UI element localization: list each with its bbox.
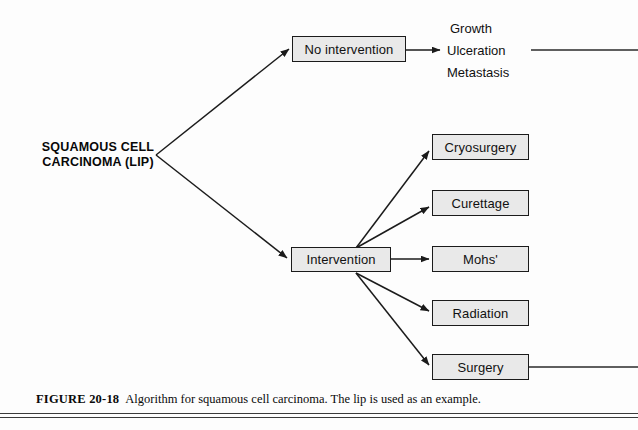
node-curettage[interactable]: Curettage: [432, 190, 529, 216]
figure-canvas: SQUAMOUS CELL CARCINOMA (LIP) No interve…: [0, 0, 638, 430]
edge-intervention-to-surgery: [356, 273, 429, 365]
node-radiation[interactable]: Radiation: [432, 300, 529, 326]
node-intervention[interactable]: Intervention: [291, 247, 391, 272]
node-cryosurgery[interactable]: Cryosurgery: [432, 134, 529, 160]
caption-rule-bottom: [0, 417, 638, 418]
node-mohs[interactable]: Mohs': [432, 246, 529, 272]
root-label-line-1: SQUAMOUS CELL: [24, 140, 172, 155]
root-node-label: SQUAMOUS CELL CARCINOMA (LIP): [24, 140, 172, 170]
edge-intervention-to-radiation: [356, 273, 429, 311]
figure-number: FIGURE 20-18: [36, 392, 119, 406]
caption-rule-top: [0, 413, 638, 414]
figure-caption: FIGURE 20-18Algorithm for squamous cell …: [36, 392, 616, 407]
edge-intervention-to-curettage: [356, 207, 429, 248]
outcome-growth: Growth: [450, 21, 492, 36]
edge-root-to-intervention: [156, 155, 287, 258]
outcome-ulceration: Ulceration: [447, 43, 506, 58]
node-surgery[interactable]: Surgery: [432, 354, 529, 380]
node-no-intervention[interactable]: No intervention: [292, 36, 406, 62]
outcome-metastasis: Metastasis: [447, 65, 509, 80]
connector-layer: [0, 0, 638, 430]
root-label-line-2: CARCINOMA (LIP): [24, 155, 172, 170]
figure-caption-text: Algorithm for squamous cell carcinoma. T…: [125, 392, 481, 406]
edge-intervention-to-cryosurgery: [356, 151, 429, 248]
edge-root-to-no-intervention: [156, 49, 289, 155]
